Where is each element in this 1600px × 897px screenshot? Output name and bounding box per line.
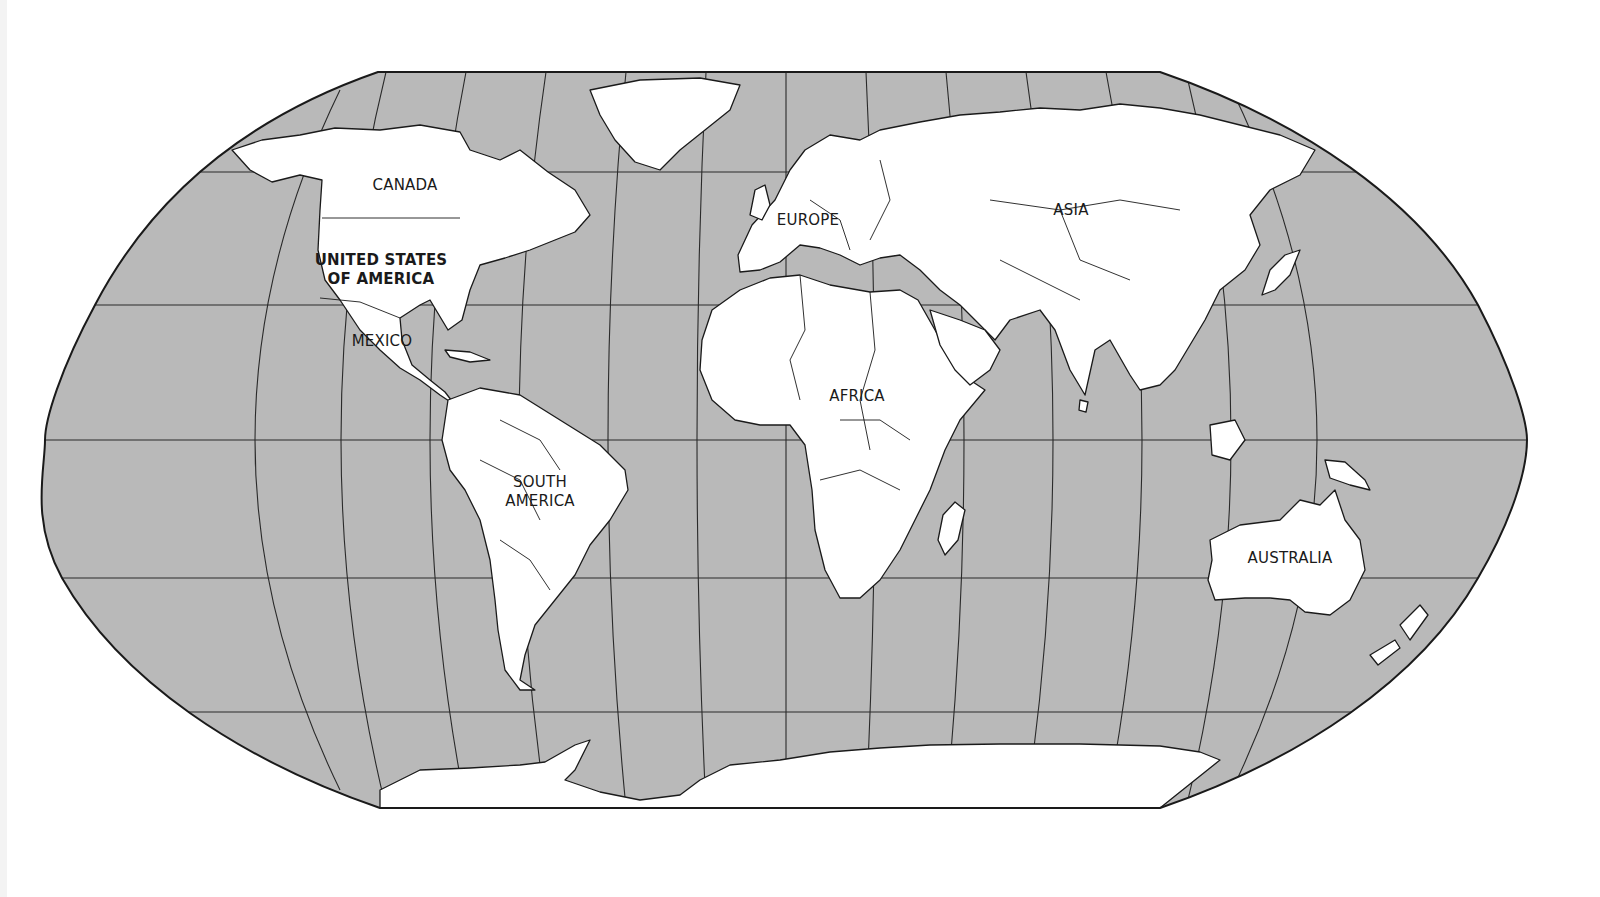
label-south-america: SOUTH AMERICA bbox=[505, 473, 575, 511]
map-canvas bbox=[0, 0, 1600, 897]
label-africa: AFRICA bbox=[829, 387, 885, 406]
page-edge bbox=[0, 0, 7, 897]
label-usa-line1: UNITED STATES bbox=[315, 251, 448, 270]
label-usa-line2: OF AMERICA bbox=[315, 270, 448, 289]
label-south-america-line2: AMERICA bbox=[505, 492, 575, 511]
world-map: CANADA UNITED STATES OF AMERICA MEXICO S… bbox=[0, 0, 1600, 897]
sri-lanka bbox=[1079, 400, 1088, 412]
label-europe: EUROPE bbox=[777, 211, 839, 230]
label-australia: AUSTRALIA bbox=[1248, 549, 1333, 568]
label-usa: UNITED STATES OF AMERICA bbox=[315, 251, 448, 289]
label-mexico: MEXICO bbox=[352, 332, 413, 351]
label-canada: CANADA bbox=[373, 176, 438, 195]
label-south-america-line1: SOUTH bbox=[505, 473, 575, 492]
label-asia: ASIA bbox=[1053, 201, 1088, 220]
